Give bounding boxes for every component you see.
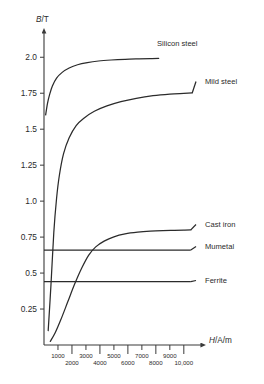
x-tick-label: 6000	[121, 359, 135, 366]
series-curves	[44, 58, 196, 341]
x-tick-label: 9000	[163, 352, 177, 359]
chart-canvas: 0.250.50.751.01.251.51.752.0 10003000500…	[0, 0, 264, 384]
leader-line	[191, 247, 196, 251]
x-tick-label: 5000	[107, 352, 121, 359]
x-tick-label: 1000	[51, 352, 65, 359]
series-label-mumetal: Mumetal	[205, 242, 234, 251]
series-curve-silicon-steel	[46, 58, 159, 114]
series-label-mild-steel: Mild steel	[205, 77, 237, 86]
series-curve-cast-iron	[50, 230, 191, 341]
leader-line	[192, 82, 196, 93]
y-tick-label: 1.5	[25, 124, 37, 134]
series-label-silicon-steel: Silicon steel	[157, 39, 198, 48]
leader-line	[191, 225, 196, 230]
axes-group	[44, 33, 201, 345]
series-label-cast-iron: Cast iron	[205, 220, 235, 229]
x-tick-label: 10,000	[174, 359, 193, 366]
leader-line	[191, 281, 196, 282]
y-tick-label: 1.25	[21, 160, 38, 170]
y-tick-label: 2.0	[25, 52, 37, 62]
y-axis-tick-labels: 0.250.50.751.01.251.51.752.0	[21, 52, 38, 314]
y-tick-label: 0.5	[25, 268, 37, 278]
series-label-ferrite: Ferrite	[205, 276, 227, 285]
y-tick-label: 0.25	[21, 304, 38, 314]
x-tick-label: 7000	[135, 352, 149, 359]
y-axis-title: B/T	[36, 15, 49, 24]
x-axis-title: H/A/m	[209, 336, 232, 345]
y-tick-label: 1.75	[21, 88, 38, 98]
x-tick-label: 2000	[65, 359, 79, 366]
x-tick-label: 4000	[93, 359, 107, 366]
y-tick-label: 0.75	[21, 232, 38, 242]
series-labels: Silicon steelMild steelCast ironMumetalF…	[157, 39, 237, 285]
bh-magnetization-chart: 0.250.50.751.01.251.51.752.0 10003000500…	[0, 0, 264, 384]
y-axis-ticks	[40, 57, 44, 309]
x-axis-tick-labels: 10003000500070009000200040006000800010,0…	[51, 352, 194, 366]
x-tick-label: 3000	[79, 352, 93, 359]
x-tick-label: 8000	[149, 359, 163, 366]
y-tick-label: 1.0	[25, 196, 37, 206]
